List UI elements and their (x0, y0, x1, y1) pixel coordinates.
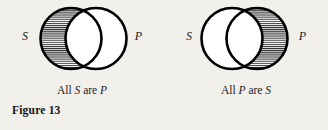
diagram-caption-right: All P are S (164, 84, 328, 97)
term-label-p-left: P (135, 30, 142, 42)
diagram-canvas-left: S P (0, 4, 164, 78)
term-label-p-right: P (299, 30, 306, 42)
caption-subject-right: P (239, 84, 246, 96)
euler-diagram-all-p-are-s: S P All P are S (164, 0, 328, 130)
figure-page: S P All S are P (0, 0, 328, 130)
caption-predicate-left: P (100, 84, 107, 96)
caption-prefix-right: All (221, 84, 239, 96)
term-label-s-right: S (186, 30, 192, 42)
term-label-s-left: S (22, 30, 28, 42)
caption-middle-left: are (80, 84, 100, 96)
caption-middle-right: are (246, 84, 266, 96)
caption-predicate-right: S (265, 84, 271, 96)
diagram-caption-left: All S are P (0, 84, 164, 97)
diagram-canvas-right: S P (164, 4, 328, 78)
figure-number-label: Figure 13 (12, 104, 61, 117)
caption-prefix-left: All (57, 84, 75, 96)
